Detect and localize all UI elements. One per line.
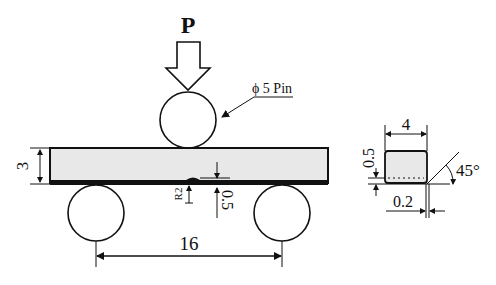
pin-label: ϕ 5 Pin bbox=[252, 81, 292, 96]
pin-leader-arrow-icon bbox=[222, 97, 254, 117]
span-label: 16 bbox=[180, 233, 199, 254]
cross-section-box bbox=[385, 151, 427, 183]
load-label: P bbox=[181, 12, 196, 38]
cross-section-angle-label: 45° bbox=[456, 161, 480, 180]
cross-section-coating-label: 0.5 bbox=[360, 148, 377, 168]
bending-test-diagram: P ϕ 5 Pin 3 0.5 R2 16 4 0.5 bbox=[0, 0, 496, 285]
thickness-label: 3 bbox=[13, 162, 32, 171]
loading-pin bbox=[160, 92, 216, 148]
right-support-roller bbox=[254, 185, 310, 241]
notch-radius-label: R2 bbox=[172, 188, 184, 201]
left-support-roller bbox=[68, 185, 124, 241]
notch-depth-label: 0.5 bbox=[219, 190, 236, 210]
load-arrow-icon bbox=[166, 42, 210, 90]
specimen-beam bbox=[50, 148, 328, 183]
cross-section-width-label: 4 bbox=[402, 115, 411, 134]
cross-section-chamfer-label: 0.2 bbox=[393, 193, 413, 210]
